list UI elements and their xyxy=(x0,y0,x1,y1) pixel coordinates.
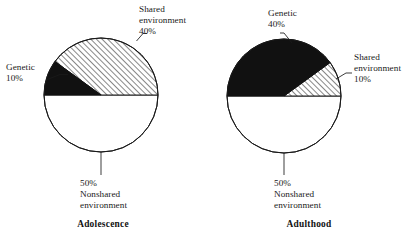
label-line: 10% xyxy=(6,73,35,84)
chart-panel-adolescence: Shared environment 40% Genetic 10% 50% N… xyxy=(0,0,206,237)
label-line: Nonshared xyxy=(80,189,127,200)
label-line: 40% xyxy=(139,26,186,37)
label-line: Genetic xyxy=(268,8,297,19)
label-line: environment xyxy=(80,200,127,211)
chart-title-adulthood: Adulthood xyxy=(206,219,412,229)
label-nonshared-environment: 50% Nonshared environment xyxy=(80,178,127,212)
label-line: Shared xyxy=(354,52,401,63)
label-line: Shared xyxy=(139,4,186,15)
label-genetic: Genetic 10% xyxy=(6,62,35,84)
label-nonshared-environment: 50% Nonshared environment xyxy=(274,178,321,212)
pie-slice-nonshared-environment xyxy=(44,95,158,152)
label-line: 10% xyxy=(354,74,401,85)
chart-panel-adulthood: Genetic 40% Shared environment 10% 50% N… xyxy=(206,0,412,237)
label-line: 50% xyxy=(274,178,321,189)
pie-slice-nonshared-environment xyxy=(227,96,341,153)
label-shared-environment: Shared environment 10% xyxy=(354,52,401,86)
label-line: 50% xyxy=(80,178,127,189)
label-shared-environment: Shared environment 40% xyxy=(139,4,186,38)
label-line: 40% xyxy=(268,19,297,30)
label-line: environment xyxy=(354,63,401,74)
label-genetic: Genetic 40% xyxy=(268,8,297,30)
label-line: Nonshared xyxy=(274,189,321,200)
two-pie-chart-figure: Shared environment 40% Genetic 10% 50% N… xyxy=(0,0,412,237)
chart-title-adolescence: Adolescence xyxy=(0,219,206,229)
label-line: Genetic xyxy=(6,62,35,73)
label-line: environment xyxy=(274,200,321,211)
label-line: environment xyxy=(139,15,186,26)
